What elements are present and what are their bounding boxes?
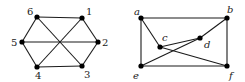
edge-2-3 xyxy=(82,42,98,66)
node-5 xyxy=(19,39,24,44)
node-3 xyxy=(79,63,84,68)
edge-6-1 xyxy=(37,17,82,18)
node-label-e: e xyxy=(133,70,139,81)
node-label-d: d xyxy=(204,39,210,50)
graph-diagram: 123456 abcdef xyxy=(0,0,245,82)
graph-right: abcdef xyxy=(133,4,235,81)
node-f xyxy=(224,63,229,68)
node-label-3: 3 xyxy=(84,69,90,80)
node-6 xyxy=(34,14,39,19)
edge-d-e xyxy=(141,38,200,66)
node-label-c: c xyxy=(162,32,168,43)
edge-4-5 xyxy=(22,42,37,67)
node-label-b: b xyxy=(227,4,233,15)
node-label-5: 5 xyxy=(11,37,17,48)
node-label-a: a xyxy=(134,6,140,17)
edge-c-f xyxy=(160,47,227,66)
node-e xyxy=(138,63,143,68)
node-b xyxy=(224,15,229,20)
node-1 xyxy=(79,15,84,20)
edge-3-4 xyxy=(37,66,82,67)
node-label-4: 4 xyxy=(35,70,41,81)
graph-left: 123456 xyxy=(11,6,108,81)
node-c xyxy=(157,44,162,49)
node-label-2: 2 xyxy=(102,37,108,48)
edge-a-c xyxy=(141,18,160,47)
node-label-6: 6 xyxy=(27,6,33,17)
node-d xyxy=(197,35,202,40)
edge-d-b xyxy=(200,18,227,38)
node-2 xyxy=(95,39,100,44)
node-label-f: f xyxy=(228,70,235,81)
edge-5-6 xyxy=(22,17,37,42)
node-4 xyxy=(34,64,39,69)
edge-1-2 xyxy=(82,18,98,42)
node-label-1: 1 xyxy=(86,6,92,17)
